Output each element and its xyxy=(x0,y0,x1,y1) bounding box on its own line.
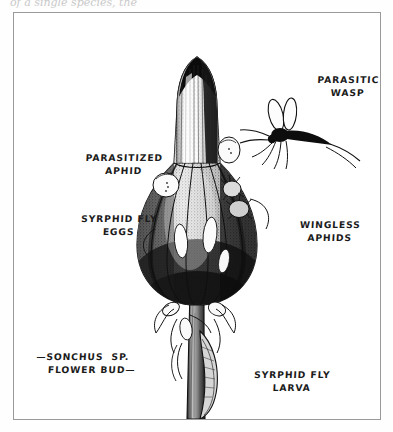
label-parasitic-wasp: PARASITIC WASP xyxy=(301,73,381,99)
illustration-frame: PARASITIC WASP PARASITIZED APHID SYRPHID… xyxy=(13,12,381,420)
parasitic-wasp-icon xyxy=(240,97,360,169)
label-wingless-aphids: WINGLESS APHIDS xyxy=(281,218,378,244)
illustration-page: of a single species, the xyxy=(0,0,393,432)
cut-off-header-text: of a single species, the xyxy=(10,0,240,8)
label-syrphid-fly-larva: SYRPHID FLY LARVA xyxy=(239,368,344,394)
flower-bud-icon xyxy=(131,53,264,323)
ink-drawing-plate: PARASITIC WASP PARASITIZED APHID SYRPHID… xyxy=(14,13,380,419)
caption-sonchus-flower-bud: —SONCHUS SP. FLOWER BUD— xyxy=(35,350,196,376)
label-parasitized-aphid: PARASITIZED APHID xyxy=(69,151,178,177)
label-syrphid-fly-eggs: SYRPHID FLY EGGS xyxy=(59,212,178,238)
